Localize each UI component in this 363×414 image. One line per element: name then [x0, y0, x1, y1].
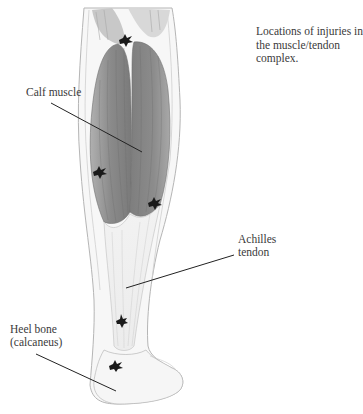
- heel-bone-label: Heel bone (calcaneus): [10, 323, 62, 349]
- achilles-tendon-label: Achilles tendon: [238, 233, 276, 259]
- calf-muscle-label: Calf muscle: [26, 86, 81, 99]
- heel-foot: [94, 350, 183, 404]
- figure-caption: Locations of injuries in the muscle/tend…: [256, 25, 346, 66]
